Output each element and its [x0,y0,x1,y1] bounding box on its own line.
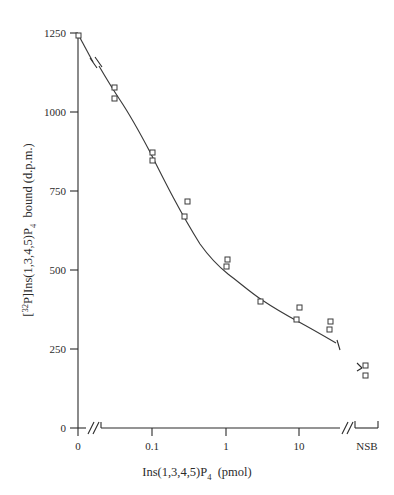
data-point [225,257,230,262]
x-tick-label-nsb: NSB [356,440,377,452]
x-tick-label-1: 1 [223,440,229,452]
y-tick-label-250: 250 [50,343,67,355]
svg-text:Ins(1,3,4,5)P4 (pmol): Ins(1,3,4,5)P4 (pmol) [142,465,251,482]
data-point [150,150,155,155]
y-axis-title-sup: 32 [20,304,30,313]
nsb-data-point [363,363,368,368]
x-axis-ticks [78,428,299,436]
y-tick-label-0: 0 [61,422,67,434]
data-point [297,305,302,310]
x-axis-title-units: (pmol) [218,465,252,479]
data-point-markers [76,33,333,332]
y-axis-title: [32P]Ins(1,3,4,5)P4 bound (d.p.m.) [20,143,38,317]
data-point [327,327,332,332]
data-point [112,96,117,101]
fit-curve-segment-upper [79,36,93,62]
data-point [76,33,81,38]
data-point [294,317,299,322]
x-tick-label-0: 0 [75,440,81,452]
nsb-data-points [363,363,368,378]
data-point [150,158,155,163]
y-axis-title-rest: bound (d.p.m.) [21,143,35,217]
y-axis-title-isotope: P]Ins(1,3,4,5)P [21,228,35,304]
y-axis-ticks [70,33,78,428]
x-axis-title-main: Ins(1,3,4,5)P [142,465,207,479]
data-point [112,85,117,90]
y-tick-label-1000: 1000 [44,106,67,118]
x-axis-tick-labels: 0 0.1 1 10 NSB [75,440,377,452]
y-axis-tick-labels: 1250 1000 750 500 250 0 [44,27,67,434]
fit-curve-segment-main [99,66,336,343]
data-point [224,264,229,269]
x-tick-label-0.1: 0.1 [145,440,159,452]
y-tick-label-1250: 1250 [44,27,67,39]
nsb-data-point [363,373,368,378]
y-tick-label-750: 750 [50,185,67,197]
data-point [185,199,190,204]
x-tick-label-10: 10 [294,440,306,452]
competition-binding-plot: 1250 1000 750 500 250 0 [0,0,394,495]
nsb-axis-bracket [355,421,378,428]
data-point [258,299,263,304]
x-axis-break-symbol-nsb [342,422,353,434]
x-axis-break-symbol [88,422,99,434]
nsb-break-tick [357,363,362,371]
x-axis-title: Ins(1,3,4,5)P4 (pmol) [142,465,251,482]
data-point [182,214,187,219]
svg-text:[32P]Ins(1,3,4,5)P4 bound (d.: [32P]Ins(1,3,4,5)P4 bound (d.p.m.) [20,143,38,317]
curve-end-tick [337,340,340,350]
chart-figure: 1250 1000 750 500 250 0 [0,0,394,495]
y-tick-label-500: 500 [50,264,67,276]
data-point [328,319,333,324]
